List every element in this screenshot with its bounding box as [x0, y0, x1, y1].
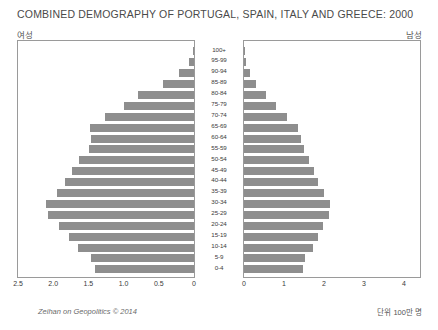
age-group-label-row: 15-19: [195, 230, 243, 241]
age-group-label: 15-19: [195, 231, 243, 238]
male-bar: [244, 178, 318, 186]
bar-row: [18, 253, 194, 264]
female-bar: [95, 265, 194, 273]
female-bar: [79, 156, 194, 164]
age-group-label: 95-99: [195, 56, 243, 63]
female-bar: [138, 91, 194, 99]
female-panel: [17, 40, 195, 278]
unit-label: 단위 100만 명: [377, 306, 422, 317]
male-bar: [244, 80, 256, 88]
age-group-label: 5-9: [195, 253, 243, 260]
bar-row: [244, 166, 420, 177]
age-group-label: 90-94: [195, 67, 243, 74]
tick-label: 1.5: [84, 280, 94, 287]
bar-row: [244, 79, 420, 90]
male-bar: [244, 58, 246, 66]
female-bar: [46, 200, 194, 208]
female-bar: [89, 145, 194, 153]
tick-label: 3: [362, 280, 366, 287]
bar-row: [244, 177, 420, 188]
age-group-label: 55-59: [195, 144, 243, 151]
male-bar: [244, 167, 314, 175]
bar-row: [18, 57, 194, 68]
tick-label: 0: [192, 280, 196, 287]
male-bar: [244, 222, 323, 230]
bar-row: [18, 166, 194, 177]
age-group-label: 30-34: [195, 198, 243, 205]
age-group-label-row: 10-14: [195, 241, 243, 252]
bar-row: [18, 242, 194, 253]
bar-row: [244, 46, 420, 57]
age-group-axis: 100+95-9990-9485-8980-8475-7970-7465-696…: [195, 40, 243, 278]
bar-row: [244, 188, 420, 199]
female-bar: [57, 189, 194, 197]
axis-label-female: 여성: [17, 28, 33, 40]
bar-row: [244, 111, 420, 122]
age-group-label: 10-14: [195, 242, 243, 249]
male-bar: [244, 145, 304, 153]
female-bar: [91, 135, 194, 143]
age-group-label: 100+: [195, 46, 243, 53]
tick-label: 2.5: [13, 280, 23, 287]
bar-row: [244, 101, 420, 112]
bar-row: [244, 122, 420, 133]
bar-row: [18, 46, 194, 57]
male-bar: [244, 254, 305, 262]
age-group-label: 45-49: [195, 166, 243, 173]
bar-row: [244, 144, 420, 155]
female-bar: [124, 102, 194, 110]
bar-row: [18, 68, 194, 79]
age-group-label: 20-24: [195, 220, 243, 227]
male-bar: [244, 47, 245, 55]
male-bar: [244, 135, 301, 143]
bar-row: [244, 210, 420, 221]
age-group-label: 25-29: [195, 209, 243, 216]
tick-label: 4: [402, 280, 406, 287]
bar-row: [18, 199, 194, 210]
age-group-label: 0-4: [195, 264, 243, 271]
bar-row: [18, 101, 194, 112]
age-group-label-row: 0-4: [195, 263, 243, 274]
age-group-label-row: 80-84: [195, 89, 243, 100]
male-bar: [244, 69, 250, 77]
bar-row: [18, 264, 194, 275]
age-group-label-row: 50-54: [195, 154, 243, 165]
bar-row: [18, 177, 194, 188]
age-group-label-row: 40-44: [195, 176, 243, 187]
bar-row: [244, 220, 420, 231]
tick-label: 1.0: [119, 280, 129, 287]
male-bar: [244, 200, 330, 208]
bar-row: [244, 231, 420, 242]
female-tick-labels: 2.52.01.51.00.50: [17, 280, 195, 294]
female-bar: [65, 178, 194, 186]
female-bar: [90, 124, 194, 132]
female-bar: [91, 254, 194, 262]
age-group-label-row: 45-49: [195, 165, 243, 176]
age-group-label: 40-44: [195, 176, 243, 183]
bar-row: [18, 155, 194, 166]
tick-label: 1: [282, 280, 286, 287]
female-bar: [105, 113, 194, 121]
age-group-label: 35-39: [195, 187, 243, 194]
bar-row: [244, 90, 420, 101]
tick-label: 0: [242, 280, 246, 287]
bar-row: [18, 90, 194, 101]
age-group-label: 60-64: [195, 133, 243, 140]
bar-row: [18, 111, 194, 122]
female-bar: [78, 244, 194, 252]
male-bar: [244, 113, 287, 121]
age-group-label-row: 75-79: [195, 100, 243, 111]
bar-row: [244, 242, 420, 253]
male-bar: [244, 156, 309, 164]
bar-row: [18, 210, 194, 221]
age-group-label: 80-84: [195, 89, 243, 96]
age-group-label-row: 30-34: [195, 198, 243, 209]
tick-label: 2: [322, 280, 326, 287]
bar-row: [244, 155, 420, 166]
age-group-label: 75-79: [195, 100, 243, 107]
male-panel: [243, 40, 421, 278]
age-group-label-row: 85-89: [195, 78, 243, 89]
bar-row: [244, 199, 420, 210]
bar-row: [18, 231, 194, 242]
bar-row: [244, 57, 420, 68]
